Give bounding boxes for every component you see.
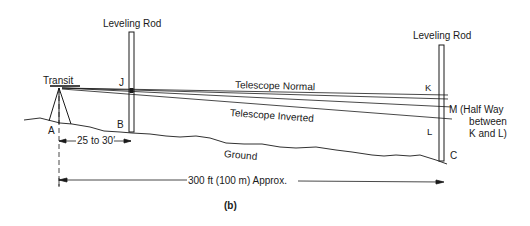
- m-note-line1: (Half Way: [460, 104, 504, 115]
- point-a-label: A: [48, 125, 55, 136]
- short-dimension-label: 25 to 30′: [77, 135, 115, 146]
- m-note-line3: K and L): [458, 128, 518, 139]
- figure-caption: (b): [224, 200, 237, 211]
- point-k-label: K: [425, 82, 431, 93]
- telescope-normal-label: Telescope Normal: [235, 79, 315, 92]
- point-j-label: J: [119, 77, 124, 88]
- point-b-label: B: [117, 119, 124, 130]
- m-note-line2: between: [458, 116, 518, 127]
- right-leveling-rod: [439, 45, 444, 161]
- left-rod-label: Leveling Rod: [103, 18, 161, 29]
- transit-label: Transit: [43, 75, 73, 86]
- left-leveling-rod: [129, 32, 134, 132]
- transit-tripod: [49, 86, 80, 124]
- point-m-label: M: [449, 104, 457, 115]
- long-dimension-label: 300 ft (100 m) Approx.: [188, 175, 287, 186]
- point-c-label: C: [450, 150, 457, 161]
- right-rod-label: Leveling Rod: [413, 30, 471, 41]
- point-l-label: L: [427, 126, 432, 137]
- reading-j-marker: [130, 88, 134, 93]
